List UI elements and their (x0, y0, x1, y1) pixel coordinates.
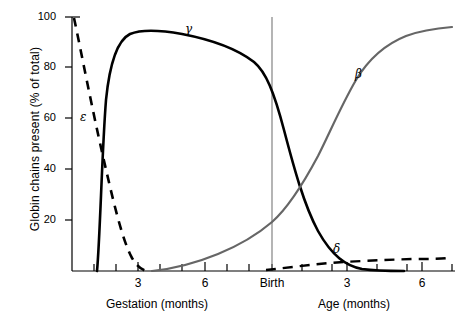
x-tick-label-gestation-3: 3 (128, 277, 148, 289)
x-axis-title-gestation: Gestation (months) (106, 298, 208, 310)
curve-label-epsilon: ε (80, 111, 86, 123)
globin-chain-switching-chart: 100 80 60 40 20 Globin chains present (%… (0, 0, 466, 324)
epsilon-curve (74, 18, 148, 271)
curve-label-gamma: γ (185, 23, 192, 35)
x-tick-label-age-6: 6 (412, 277, 432, 289)
curve-label-delta: δ (333, 243, 340, 255)
x-tick-label-gestation-6: 6 (195, 277, 215, 289)
beta-curve (152, 27, 452, 271)
x-tick-label-age-3: 3 (337, 277, 357, 289)
chart-plot-area (0, 0, 466, 324)
y-axis-title: Globin chains present (% of total) (28, 47, 42, 231)
x-tick-label-birth: Birth (252, 277, 292, 289)
axis-lines (72, 17, 455, 271)
y-axis-title-wrapper: Globin chains present (% of total) (25, 19, 43, 259)
y-axis-ticks (65, 17, 72, 220)
curve-label-beta: β (355, 68, 362, 80)
x-axis-title-age: Age (months) (318, 298, 390, 310)
